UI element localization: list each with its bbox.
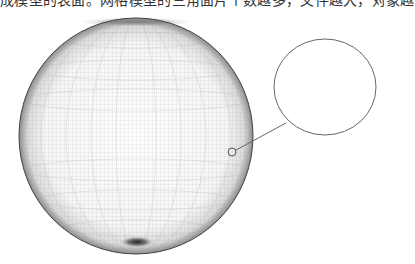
sphere <box>19 17 253 254</box>
south-pole <box>119 236 155 248</box>
magnifier-circle <box>274 39 376 135</box>
